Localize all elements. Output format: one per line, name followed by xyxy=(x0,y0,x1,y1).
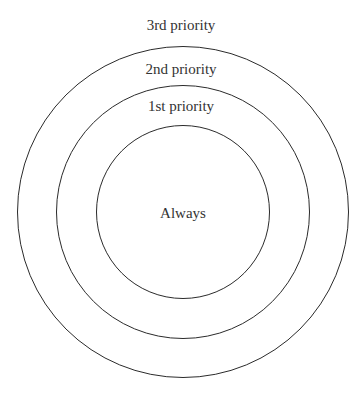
label-always: Always xyxy=(2,204,362,222)
label-2nd-priority: 2nd priority xyxy=(0,60,362,78)
label-3rd-priority: 3rd priority xyxy=(0,16,362,34)
priority-diagram: 3rd priority 2nd priority 1st priority A… xyxy=(0,0,362,395)
label-1st-priority: 1st priority xyxy=(0,97,362,115)
